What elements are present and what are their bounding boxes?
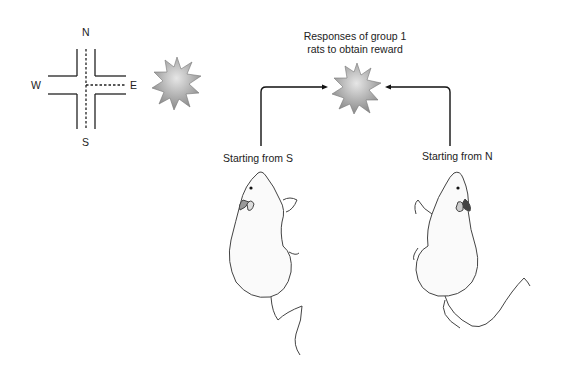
rat-illustration-left: [229, 172, 302, 355]
diagram-title-line1: Responses of group 1: [280, 30, 430, 43]
plus-maze: [48, 49, 126, 129]
rat-illustration-right: [414, 172, 531, 328]
star-burst-icon: [152, 57, 201, 110]
diagram-title-line2: rats to obtain reward: [280, 43, 430, 56]
maze-label-east: E: [130, 79, 137, 91]
label-starting-from-s: Starting from S: [223, 152, 293, 164]
arrow-from-north: [385, 85, 450, 147]
arrow-from-south: [261, 85, 328, 147]
diagram-title: Responses of group 1 rats to obtain rewa…: [280, 30, 430, 56]
star-burst-icon: [332, 63, 381, 114]
maze-label-south: S: [82, 136, 89, 148]
maze-label-west: W: [31, 79, 41, 91]
label-starting-from-n: Starting from N: [422, 150, 493, 162]
maze-label-north: N: [82, 26, 90, 38]
